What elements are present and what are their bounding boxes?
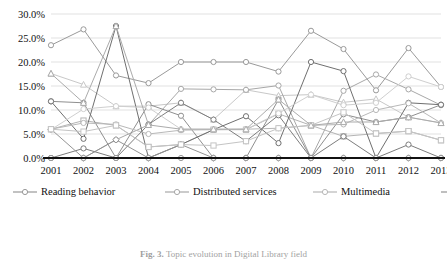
y-tick-label: 0.0% <box>23 153 45 164</box>
data-point-marker <box>276 111 281 116</box>
data-point-marker <box>113 137 119 143</box>
x-tick-label: 2008 <box>268 165 289 176</box>
y-axis-tick-labels: 0.0%5.0%10.0%15.0%20.0%25.0%30.0% <box>18 9 45 164</box>
data-point-marker <box>373 72 378 77</box>
data-point-marker <box>276 69 281 74</box>
y-tick-label: 15.0% <box>18 81 45 92</box>
data-point-marker <box>211 87 216 92</box>
data-point-marker <box>373 131 378 136</box>
data-point-marker <box>48 43 53 48</box>
data-point-marker <box>178 86 183 91</box>
legend-item-information-seeking[interactable]: Information seeking <box>440 186 447 198</box>
caption-label: Fig. 3. <box>140 249 164 259</box>
data-point-marker <box>341 103 346 108</box>
data-point-marker <box>81 146 86 151</box>
x-tick-label: 2003 <box>106 165 127 176</box>
data-point-marker <box>243 59 248 64</box>
data-point-marker <box>308 92 313 97</box>
data-point-marker <box>146 131 151 136</box>
figure-container: 0.0%5.0%10.0%15.0%20.0%25.0%30.0% 200120… <box>0 0 447 264</box>
data-point-marker <box>146 144 151 149</box>
data-point-marker <box>211 59 216 64</box>
data-point-marker <box>438 84 443 89</box>
x-tick-label: 2007 <box>236 165 257 176</box>
y-tick-label: 5.0% <box>23 129 45 140</box>
caption-text: Topic evolution in Digital Library field <box>166 249 307 259</box>
data-point-marker <box>406 129 411 134</box>
data-point-marker <box>373 100 378 105</box>
legend-item-label: Distributed services <box>193 186 277 198</box>
data-point-marker <box>243 87 248 92</box>
x-tick-label: 2001 <box>41 165 62 176</box>
chart-legend: Reading behaviorDistributed servicesMult… <box>12 186 440 248</box>
data-point-marker <box>81 136 86 141</box>
legend-item-label: Multimedia <box>341 186 390 198</box>
data-point-marker <box>174 190 179 195</box>
data-point-marker <box>48 99 53 104</box>
data-point-marker <box>146 105 151 110</box>
data-point-marker <box>308 59 313 64</box>
data-point-marker <box>406 87 411 92</box>
x-tick-label: 2009 <box>301 165 322 176</box>
data-point-marker <box>211 143 216 148</box>
data-point-marker <box>276 83 281 88</box>
data-point-marker <box>81 129 86 134</box>
data-point-marker <box>406 74 411 79</box>
chart-plot-area: 0.0%5.0%10.0%15.0%20.0%25.0%30.0% 200120… <box>0 0 447 185</box>
data-point-marker <box>178 100 183 105</box>
data-point-marker <box>276 141 281 146</box>
legend-marker-diamond-icon <box>440 186 447 198</box>
data-point-marker <box>48 127 53 132</box>
data-point-marker <box>322 190 327 195</box>
series-reading-behavior <box>48 27 443 93</box>
x-tick-label: 2004 <box>138 165 160 176</box>
data-point-marker <box>113 104 118 109</box>
data-point-marker <box>308 28 313 33</box>
legend-item-label: Reading behavior <box>41 186 115 198</box>
legend-marker-circle-icon <box>164 186 190 198</box>
legend-marker-circle-icon <box>12 186 38 198</box>
y-tick-label: 20.0% <box>18 57 45 68</box>
data-point-marker <box>438 102 443 107</box>
data-point-marker <box>81 106 86 111</box>
data-point-marker <box>211 117 216 122</box>
legend-item-multimedia[interactable]: Multimedia <box>312 186 440 198</box>
data-point-marker <box>178 142 183 147</box>
data-point-marker <box>341 110 346 115</box>
data-point-marker <box>178 59 183 64</box>
data-point-marker <box>373 107 378 112</box>
legend-marker-circle-icon <box>312 186 338 198</box>
legend-item-reading-behavior[interactable]: Reading behavior <box>12 186 164 198</box>
y-tick-label: 25.0% <box>18 33 45 44</box>
data-point-marker <box>406 45 411 50</box>
line-chart: 0.0%5.0%10.0%15.0%20.0%25.0%30.0% 200120… <box>0 0 447 185</box>
legend-item-distributed-services[interactable]: Distributed services <box>164 186 312 198</box>
x-tick-label: 2010 <box>333 165 354 176</box>
data-point-marker <box>406 101 411 106</box>
figure-caption: Fig. 3. Topic evolution in Digital Libra… <box>0 249 447 259</box>
data-point-marker <box>438 138 443 143</box>
data-point-marker <box>81 27 86 32</box>
data-point-marker <box>178 113 183 118</box>
data-point-marker <box>406 142 411 147</box>
data-point-marker <box>243 114 248 119</box>
x-tick-label: 2006 <box>203 165 224 176</box>
data-point-marker <box>341 134 346 139</box>
x-tick-label: 2011 <box>366 165 387 176</box>
data-point-marker <box>373 88 378 93</box>
series-search-engines <box>48 74 443 132</box>
x-tick-label: 2002 <box>73 165 94 176</box>
data-point-marker <box>341 46 346 51</box>
data-point-marker <box>81 120 86 125</box>
data-point-marker <box>113 73 118 78</box>
y-tick-label: 30.0% <box>18 9 45 20</box>
y-tick-label: 10.0% <box>18 105 45 116</box>
x-tick-label: 2012 <box>398 165 419 176</box>
data-point-marker <box>48 70 54 76</box>
x-tick-label: 2013 <box>431 165 447 176</box>
data-series-group <box>48 23 444 161</box>
data-point-marker <box>341 69 346 74</box>
x-axis-tick-labels: 2001200220032004200520062007200820092010… <box>41 165 447 176</box>
data-point-marker <box>276 126 281 131</box>
data-point-marker <box>243 139 248 144</box>
